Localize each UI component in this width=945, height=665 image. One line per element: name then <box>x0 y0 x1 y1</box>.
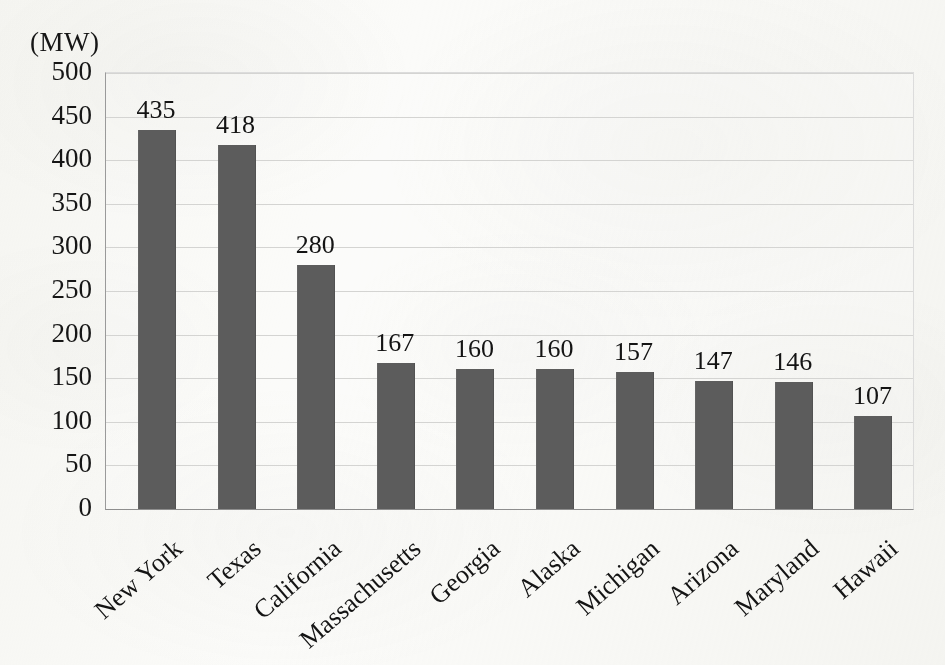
bar-value-label: 160 <box>439 336 509 362</box>
y-axis-tick-label: 200 <box>20 320 92 347</box>
bar-value-label: 167 <box>360 330 430 356</box>
x-axis-category-label: Georgia <box>425 535 505 609</box>
bar-value-label: 147 <box>678 348 748 374</box>
y-axis-tick-label: 0 <box>20 494 92 521</box>
x-axis-category-label: Michigan <box>572 535 664 620</box>
bar-value-label: 280 <box>280 232 350 258</box>
y-axis-tick-label: 100 <box>20 407 92 434</box>
bar <box>138 130 176 509</box>
y-axis-unit-label: (MW) <box>30 27 99 58</box>
bar <box>616 372 654 509</box>
bar <box>297 265 335 509</box>
x-axis-category-label: Alaska <box>513 535 585 602</box>
y-axis-tick-label: 150 <box>20 363 92 390</box>
x-axis-category-label: New York <box>90 535 187 624</box>
y-axis-tick-label: 450 <box>20 102 92 129</box>
y-axis-tick-label: 50 <box>20 450 92 477</box>
bar <box>695 381 733 509</box>
y-axis-tick-label: 250 <box>20 276 92 303</box>
y-axis-tick-label: 350 <box>20 189 92 216</box>
y-axis-tick-label: 500 <box>20 58 92 85</box>
gridline <box>106 73 913 74</box>
x-axis-category-label: Hawaii <box>829 535 903 604</box>
bar <box>218 145 256 509</box>
bar-value-label: 146 <box>758 349 828 375</box>
bar <box>854 416 892 509</box>
bar-chart: (MW) 500450400350300250200150100500 4354… <box>0 0 945 665</box>
bar-value-label: 107 <box>837 383 907 409</box>
bar <box>456 369 494 509</box>
y-axis-tick-label: 300 <box>20 232 92 259</box>
bar <box>775 382 813 509</box>
bar-value-label: 418 <box>201 112 271 138</box>
bar-value-label: 157 <box>599 339 669 365</box>
bar <box>377 363 415 509</box>
x-axis-category-label: Texas <box>204 535 267 594</box>
x-axis-category-label: Maryland <box>730 535 823 621</box>
bar <box>536 369 574 509</box>
bar-value-label: 160 <box>519 336 589 362</box>
bar-value-label: 435 <box>121 97 191 123</box>
y-axis-tick-label: 400 <box>20 145 92 172</box>
